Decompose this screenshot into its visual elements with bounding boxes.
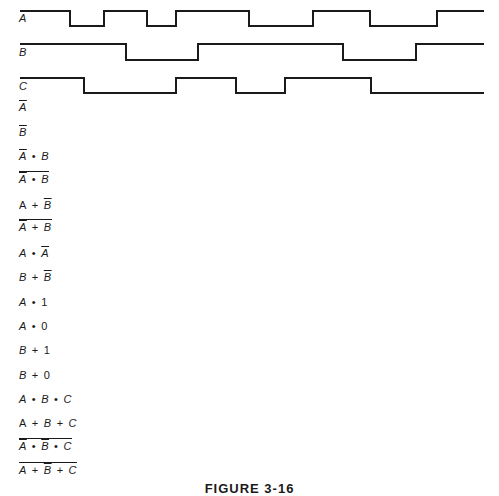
var-b: B [19,271,27,283]
or-operator: + [27,271,44,283]
waveform-a [20,11,484,26]
var-a: A [19,101,27,113]
var-b: B [19,369,27,381]
signal-label-b: B [19,46,26,58]
var-b: B [44,199,52,211]
var-b: B [44,464,52,476]
and-operator: • [27,440,41,452]
timing-waveforms [0,0,499,100]
var-b: B [19,344,27,356]
var-b: B [41,393,49,405]
and-operator: • [49,440,63,452]
var-a: A [19,173,27,185]
var-a: A [19,320,27,332]
var-c: C [63,393,71,405]
const-zero: 0 [41,320,48,332]
var-a: A [19,247,27,259]
or-operator: + [52,417,69,429]
var-b: B [44,271,52,283]
and-operator: • [27,173,41,185]
var-a: A [19,221,27,233]
var-b: B [41,150,49,162]
var-c: C [69,464,77,476]
expr-a-and-0: A•0 [19,320,48,332]
or-operator: + [52,464,69,476]
or-operator: + [27,417,44,429]
overbar-group: A+B [19,219,52,233]
expr-b-or-1: B+1 [19,344,50,356]
var-c: C [63,440,71,452]
var-a: A [19,296,27,308]
expr-not-a: A [19,101,27,113]
var-a: A [19,150,27,162]
const-one: 1 [41,296,48,308]
var-a: A [19,393,27,405]
and-operator: • [27,247,41,259]
waveform-b [20,44,484,60]
expr-b-or-not-b: B+B [19,271,52,283]
expr-b-or-0: B+0 [19,369,50,381]
and-operator: • [27,296,41,308]
expr-a-or-b-or-c: A+B+C [19,417,77,429]
figure-caption: FIGURE 3-16 [0,481,499,496]
expr-nor-a-not-b-c: A+B+C [19,464,77,476]
signal-label-c: C [19,80,27,92]
or-operator: + [27,199,44,211]
or-operator: + [27,464,44,476]
and-operator: • [27,393,41,405]
var-b: B [19,126,27,138]
var-b: B [44,417,52,429]
and-operator: • [27,320,41,332]
expr-nand-not-a-not-b-c: A•B•C [19,440,72,452]
or-operator: + [27,369,44,381]
var-b: B [41,173,49,185]
or-operator: + [27,221,44,233]
var-b: B [44,221,52,233]
signal-label-a: A [19,12,26,24]
const-zero: 0 [44,369,51,381]
var-a: A [19,199,27,211]
var-a: A [19,464,27,476]
expr-a-and-b-and-c: A•B•C [19,393,72,405]
const-one: 1 [44,344,51,356]
overbar-group: A•B [19,171,49,185]
var-a: A [41,247,49,259]
expr-nor-not-a-b: A+B [19,221,52,233]
and-operator: • [49,393,63,405]
waveform-c [20,78,484,93]
expr-not-a-and-b: A•B [19,150,49,162]
overbar-group: A+B+C [19,462,77,476]
or-operator: + [27,344,44,356]
expr-not-b: B [19,126,27,138]
expr-a-and-1: A•1 [19,296,48,308]
var-c: C [69,417,77,429]
var-a: A [19,440,27,452]
overbar-group: A•B•C [19,438,72,452]
var-b: B [41,440,49,452]
expr-a-or-not-b: A+B [19,199,52,211]
and-operator: • [27,150,41,162]
expr-a-and-not-a: A•A [19,247,49,259]
expr-nand-not-a-b: A•B [19,173,49,185]
var-a: A [19,417,27,429]
